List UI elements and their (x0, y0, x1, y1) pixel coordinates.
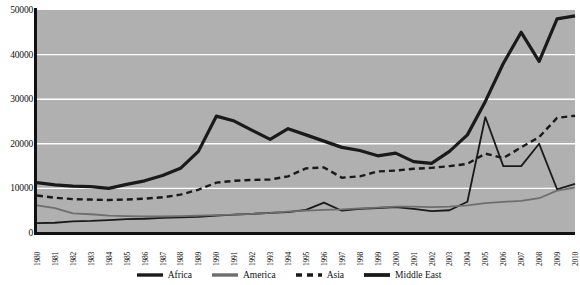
legend-item-america[interactable]: America (212, 270, 276, 280)
legend-label-africa: Africa (168, 270, 192, 280)
legend-item-middle-east[interactable]: Middle East (364, 270, 441, 280)
y-axis-line (34, 8, 37, 235)
legend-swatch-asia (296, 270, 322, 280)
y-axis-tick-label: 20000 (0, 139, 33, 149)
legend-label-asia: Asia (327, 270, 344, 280)
legend-item-africa[interactable]: Africa (137, 270, 192, 280)
y-axis-tick-labels: 50000400003000020000100000 (0, 0, 33, 285)
legend-label-america: America (243, 270, 276, 280)
y-axis-tick-label: 0 (0, 228, 33, 238)
y-axis-tick-label: 10000 (0, 183, 33, 193)
plot-area (37, 10, 575, 233)
y-axis-tick-label: 30000 (0, 94, 33, 104)
legend-swatch-america (212, 270, 238, 280)
legend-swatch-middle-east (364, 270, 390, 280)
x-axis-tick-labels: 1980198119821983198419851986198719881989… (37, 236, 575, 266)
y-axis-tick-label: 40000 (0, 50, 33, 60)
chart-legend: Africa America Asia Middle East (0, 264, 578, 285)
y-axis-tick-label: 50000 (0, 5, 33, 15)
legend-item-asia[interactable]: Asia (296, 270, 344, 280)
legend-label-middle-east: Middle East (395, 270, 441, 280)
x-axis-line (34, 232, 575, 235)
legend-swatch-africa (137, 270, 163, 280)
